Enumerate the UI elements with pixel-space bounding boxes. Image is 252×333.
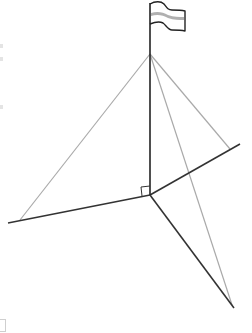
guy-wire-down (150, 54, 232, 305)
ground-line-down (150, 195, 234, 308)
guy-wire-left (20, 54, 150, 220)
flag-stripe (151, 12, 184, 20)
flag-icon (150, 2, 185, 31)
guy-wires (20, 54, 232, 305)
guy-wire-right (150, 54, 230, 149)
ground-line-right (150, 144, 240, 195)
ground-lines (8, 144, 240, 308)
flagpole-diagram (0, 0, 252, 333)
